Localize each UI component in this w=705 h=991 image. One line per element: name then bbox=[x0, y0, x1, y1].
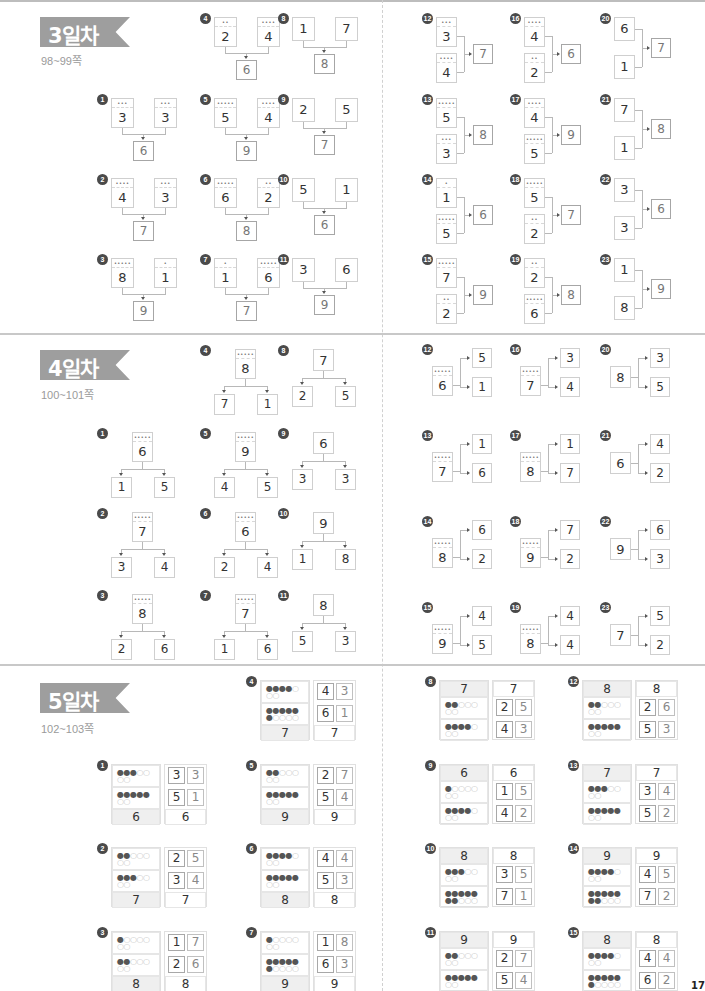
ten-frame-dots: ●●●●●○○ bbox=[266, 791, 298, 805]
ten-frame-row: ●●●●●○○ bbox=[261, 870, 309, 892]
arrow-right-icon bbox=[647, 207, 650, 211]
part-b-box: 2 bbox=[650, 463, 670, 483]
whole-box: 7 bbox=[313, 349, 334, 371]
pair-first: 3 bbox=[639, 783, 656, 800]
day5-badge: 5일차 bbox=[40, 683, 130, 713]
pair-second: 4 bbox=[336, 789, 353, 806]
sum-box: 8 bbox=[473, 125, 493, 145]
number-pair-table: 82653 bbox=[635, 680, 678, 740]
problem-number-badge: 21 bbox=[600, 430, 611, 441]
arrow-down-icon bbox=[222, 473, 226, 476]
addend-a-box: ••••• •••8 bbox=[111, 258, 134, 288]
problem-number-badge: 1 bbox=[97, 428, 108, 439]
dot-cue: •••• bbox=[258, 18, 279, 27]
ten-frame-row: ●●●●●○○ bbox=[261, 787, 309, 809]
connector bbox=[457, 277, 464, 278]
problem-number-badge: 12 bbox=[568, 676, 579, 687]
problem-number-badge: 15 bbox=[422, 254, 433, 265]
whole-box: ••••• •••8 bbox=[520, 452, 541, 482]
connector bbox=[121, 549, 164, 550]
ten-frame-row: ●●●●●●●○○○ bbox=[440, 886, 488, 908]
addend-b-box: 6 bbox=[335, 258, 358, 282]
problem-4: 4••••• •••871 bbox=[200, 345, 290, 425]
pair-first: 4 bbox=[496, 805, 513, 822]
arrow-down-icon bbox=[162, 473, 166, 476]
arrow-down-icon bbox=[343, 627, 347, 630]
addend-a-box: ••2 bbox=[524, 258, 545, 288]
dot-cue: ••••• • bbox=[258, 259, 279, 268]
arrow-down-icon bbox=[244, 56, 248, 59]
sum-box: 9 bbox=[561, 125, 581, 145]
connector bbox=[122, 294, 166, 295]
pair-first: 5 bbox=[317, 872, 334, 889]
whole-value: 8 bbox=[611, 370, 630, 385]
part-a: 1 bbox=[293, 552, 312, 566]
dot-cue: •• bbox=[525, 259, 544, 268]
ten-frame-row: ●●○○○○○ bbox=[112, 848, 160, 870]
dot-cue: ••• bbox=[437, 18, 456, 27]
arrow-right-icon bbox=[645, 471, 648, 475]
addend-b: 4 bbox=[437, 65, 456, 80]
connector bbox=[323, 616, 324, 623]
problem-5: 5•••••5••••49 bbox=[200, 94, 290, 174]
dot-cue: ••• bbox=[155, 99, 176, 108]
addend-b-box: ••••• •6 bbox=[257, 258, 280, 288]
number-pair-table: 72543 bbox=[492, 680, 535, 740]
day3-badge: 3일차 bbox=[40, 17, 130, 47]
dot-cue: ••••• • bbox=[433, 367, 452, 376]
ten-frame-row: ●●○○○○○ bbox=[440, 948, 488, 970]
pair-first: 1 bbox=[168, 934, 185, 951]
pair-first: 1 bbox=[496, 783, 513, 800]
connector bbox=[225, 294, 269, 295]
part-a: 5 bbox=[651, 609, 669, 623]
arrow-right-icon bbox=[555, 356, 558, 360]
ten-frame-table: 9●●○○○○○●●●●●○○ bbox=[260, 764, 310, 824]
problem-number-badge: 5 bbox=[200, 94, 211, 105]
part-a-box: 1 bbox=[560, 434, 580, 454]
part-a-box: 4 bbox=[214, 477, 235, 498]
pair-second: 4 bbox=[187, 872, 204, 889]
part-b-box: 1 bbox=[472, 377, 492, 397]
addend-a-box: ••••4 bbox=[524, 98, 545, 128]
total-cell: 9 bbox=[583, 848, 631, 864]
addend-b-box: 3 bbox=[614, 216, 635, 240]
problem-3: 38●○○○○○○●●○○○○○81726 bbox=[97, 927, 232, 991]
whole-box: 8 bbox=[313, 594, 334, 616]
part-a: 4 bbox=[473, 609, 491, 623]
sum-value: 7 bbox=[134, 224, 153, 238]
pair-first: 6 bbox=[639, 972, 656, 989]
problem-number-badge: 23 bbox=[600, 254, 611, 265]
pair-second: 1 bbox=[187, 789, 204, 806]
part-b: 4 bbox=[258, 560, 277, 574]
day5-page-range: 102~103쪽 bbox=[41, 720, 94, 736]
pair-second: 3 bbox=[336, 956, 353, 973]
problem-7: 79●○○○○○○●●●●●●○○○○91863 bbox=[246, 927, 381, 991]
dot-cue: •••• bbox=[437, 54, 456, 63]
problem-11: 119●●○○○○○●●●●●○○92754 bbox=[425, 927, 560, 991]
part-a: 4 bbox=[651, 437, 669, 451]
connector bbox=[453, 385, 460, 386]
ten-frame-row: ●●●○○○○ bbox=[583, 781, 631, 803]
dot-cue: •••• bbox=[258, 99, 279, 108]
arrow-down-icon bbox=[119, 473, 123, 476]
pair-first: 4 bbox=[317, 850, 334, 867]
whole-box: ••••• •••8 bbox=[235, 349, 256, 379]
total-cell: 9 bbox=[314, 976, 355, 991]
pair-second: 3 bbox=[658, 721, 675, 738]
arrow-right-icon bbox=[557, 133, 560, 137]
problem-number-badge: 15 bbox=[422, 602, 433, 613]
total-cell: 8 bbox=[583, 681, 631, 697]
part-b-box: 3 bbox=[335, 469, 356, 490]
part-a-box: 7 bbox=[560, 520, 580, 540]
ten-frame-row: ●○○○○○○ bbox=[261, 932, 309, 954]
connector bbox=[142, 462, 143, 469]
addend-a-box: ••••4 bbox=[111, 178, 134, 208]
dot-cue: ••••• bbox=[215, 99, 236, 108]
problem-number-badge: 13 bbox=[422, 94, 433, 105]
problem-9: 9633 bbox=[278, 428, 368, 508]
connector bbox=[635, 308, 642, 309]
dot-cue: ••••• •• bbox=[521, 367, 540, 376]
ten-frame-row: ●●●●●●○○○○ bbox=[261, 703, 309, 725]
problem-number-badge: 13 bbox=[422, 430, 433, 441]
ten-frame-row: ●●●○○○○ bbox=[112, 765, 160, 787]
